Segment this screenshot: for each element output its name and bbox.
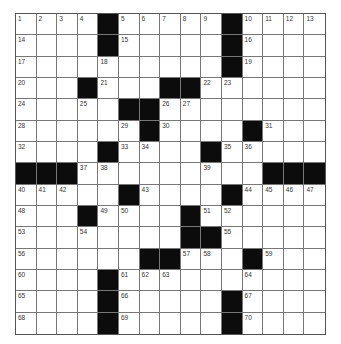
answer-cell[interactable] — [304, 142, 325, 163]
answer-cell[interactable] — [37, 57, 58, 78]
answer-cell[interactable]: 22 — [201, 78, 222, 99]
answer-cell[interactable] — [284, 206, 305, 227]
answer-cell[interactable]: 31 — [263, 121, 284, 142]
answer-cell[interactable] — [181, 35, 202, 56]
answer-cell[interactable] — [57, 270, 78, 291]
answer-cell[interactable] — [201, 99, 222, 120]
answer-cell[interactable]: 19 — [243, 57, 264, 78]
answer-cell[interactable] — [284, 291, 305, 312]
answer-cell[interactable] — [304, 206, 325, 227]
answer-cell[interactable]: 8 — [181, 14, 202, 35]
answer-cell[interactable] — [222, 121, 243, 142]
answer-cell[interactable]: 18 — [98, 57, 119, 78]
answer-cell[interactable]: 59 — [263, 249, 284, 270]
answer-cell[interactable] — [78, 121, 99, 142]
answer-cell[interactable]: 29 — [119, 121, 140, 142]
answer-cell[interactable]: 56 — [16, 249, 37, 270]
answer-cell[interactable] — [263, 142, 284, 163]
answer-cell[interactable] — [263, 313, 284, 334]
answer-cell[interactable]: 39 — [201, 163, 222, 184]
answer-cell[interactable] — [284, 35, 305, 56]
answer-cell[interactable] — [263, 35, 284, 56]
answer-cell[interactable]: 33 — [119, 142, 140, 163]
answer-cell[interactable]: 2 — [37, 14, 58, 35]
answer-cell[interactable]: 1 — [16, 14, 37, 35]
answer-cell[interactable]: 44 — [243, 185, 264, 206]
answer-cell[interactable] — [119, 57, 140, 78]
answer-cell[interactable] — [98, 249, 119, 270]
answer-cell[interactable] — [140, 163, 161, 184]
answer-cell[interactable]: 34 — [140, 142, 161, 163]
answer-cell[interactable] — [263, 78, 284, 99]
answer-cell[interactable] — [160, 206, 181, 227]
answer-cell[interactable] — [140, 291, 161, 312]
answer-cell[interactable] — [37, 206, 58, 227]
answer-cell[interactable] — [304, 249, 325, 270]
answer-cell[interactable] — [304, 291, 325, 312]
answer-cell[interactable] — [78, 270, 99, 291]
answer-cell[interactable] — [119, 78, 140, 99]
answer-cell[interactable]: 6 — [140, 14, 161, 35]
answer-cell[interactable] — [78, 249, 99, 270]
answer-cell[interactable]: 24 — [16, 99, 37, 120]
answer-cell[interactable] — [263, 99, 284, 120]
answer-cell[interactable]: 40 — [16, 185, 37, 206]
answer-cell[interactable]: 46 — [284, 185, 305, 206]
answer-cell[interactable] — [57, 121, 78, 142]
answer-cell[interactable] — [57, 57, 78, 78]
answer-cell[interactable] — [201, 121, 222, 142]
answer-cell[interactable] — [263, 291, 284, 312]
answer-cell[interactable]: 64 — [243, 270, 264, 291]
answer-cell[interactable] — [304, 270, 325, 291]
answer-cell[interactable] — [78, 291, 99, 312]
answer-cell[interactable]: 52 — [222, 206, 243, 227]
answer-cell[interactable]: 10 — [243, 14, 264, 35]
answer-cell[interactable] — [57, 313, 78, 334]
answer-cell[interactable]: 28 — [16, 121, 37, 142]
answer-cell[interactable] — [181, 291, 202, 312]
answer-cell[interactable] — [37, 35, 58, 56]
answer-cell[interactable] — [222, 270, 243, 291]
answer-cell[interactable] — [98, 185, 119, 206]
answer-cell[interactable] — [284, 78, 305, 99]
answer-cell[interactable] — [119, 249, 140, 270]
answer-cell[interactable] — [181, 142, 202, 163]
answer-cell[interactable] — [222, 99, 243, 120]
answer-cell[interactable] — [284, 142, 305, 163]
answer-cell[interactable] — [201, 313, 222, 334]
answer-cell[interactable] — [37, 99, 58, 120]
answer-cell[interactable]: 70 — [243, 313, 264, 334]
answer-cell[interactable]: 60 — [16, 270, 37, 291]
answer-cell[interactable] — [181, 185, 202, 206]
answer-cell[interactable]: 14 — [16, 35, 37, 56]
answer-cell[interactable]: 11 — [263, 14, 284, 35]
answer-cell[interactable]: 20 — [16, 78, 37, 99]
answer-cell[interactable]: 58 — [201, 249, 222, 270]
answer-cell[interactable] — [78, 57, 99, 78]
answer-cell[interactable]: 61 — [119, 270, 140, 291]
answer-cell[interactable]: 9 — [201, 14, 222, 35]
answer-cell[interactable] — [243, 227, 264, 248]
answer-cell[interactable]: 66 — [119, 291, 140, 312]
answer-cell[interactable] — [57, 206, 78, 227]
answer-cell[interactable] — [284, 249, 305, 270]
answer-cell[interactable] — [284, 313, 305, 334]
answer-cell[interactable] — [181, 313, 202, 334]
answer-cell[interactable] — [284, 121, 305, 142]
answer-cell[interactable] — [37, 78, 58, 99]
answer-cell[interactable] — [201, 291, 222, 312]
answer-cell[interactable] — [243, 99, 264, 120]
answer-cell[interactable]: 49 — [98, 206, 119, 227]
answer-cell[interactable] — [57, 78, 78, 99]
answer-cell[interactable]: 23 — [222, 78, 243, 99]
answer-cell[interactable] — [160, 35, 181, 56]
answer-cell[interactable] — [57, 291, 78, 312]
answer-cell[interactable] — [57, 35, 78, 56]
answer-cell[interactable]: 3 — [57, 14, 78, 35]
answer-cell[interactable]: 7 — [160, 14, 181, 35]
answer-cell[interactable]: 42 — [57, 185, 78, 206]
answer-cell[interactable] — [201, 57, 222, 78]
answer-cell[interactable] — [284, 270, 305, 291]
answer-cell[interactable] — [98, 121, 119, 142]
answer-cell[interactable] — [304, 35, 325, 56]
